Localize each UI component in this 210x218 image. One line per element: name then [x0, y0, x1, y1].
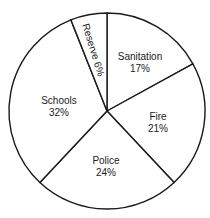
pie-slices [9, 13, 205, 209]
svg-text:Sanitation: Sanitation [118, 51, 162, 62]
svg-text:32%: 32% [49, 107, 69, 118]
svg-text:24%: 24% [96, 167, 116, 178]
slice-label-police: Police 24% [92, 155, 120, 178]
svg-text:Fire: Fire [149, 111, 167, 122]
svg-text:Schools: Schools [41, 95, 77, 106]
slice-label-fire: Fire 21% [148, 111, 168, 134]
svg-text:17%: 17% [130, 63, 150, 74]
pie-svg: Sanitation 17% Fire 21% Police 24% Schoo… [0, 0, 210, 218]
svg-text:Police: Police [92, 155, 120, 166]
svg-text:21%: 21% [148, 123, 168, 134]
pie-chart: Sanitation 17% Fire 21% Police 24% Schoo… [0, 0, 210, 218]
